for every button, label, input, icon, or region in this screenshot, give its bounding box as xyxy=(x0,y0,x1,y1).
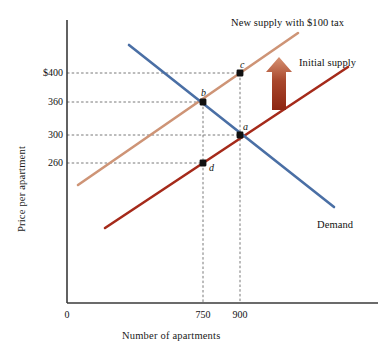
y-tick-label-300: 300 xyxy=(48,129,63,140)
new-supply-label: New supply with $100 tax xyxy=(231,17,344,28)
new-supply-line xyxy=(78,33,298,185)
supply-shift-arrow xyxy=(266,57,292,110)
point-label-b: b xyxy=(201,87,206,98)
x-tick-label-750: 750 xyxy=(188,309,218,320)
demand-label: Demand xyxy=(317,219,353,230)
initial-supply-line xyxy=(105,67,348,228)
point-label-d: d xyxy=(209,162,214,173)
supply-demand-chart: Price per apartment Number of apartments… xyxy=(0,0,385,356)
initial-supply-label: Initial supply xyxy=(299,57,356,68)
horizontal-guide-lines xyxy=(67,73,240,163)
y-tick-label-360: 360 xyxy=(48,96,63,107)
x-tick-label-0: 0 xyxy=(60,309,74,320)
x-axis-title: Number of apartments xyxy=(122,330,220,341)
demand-line xyxy=(129,45,334,207)
chart-canvas xyxy=(0,0,385,356)
point-label-c: c xyxy=(240,59,244,70)
y-tick-label-260: 260 xyxy=(48,157,63,168)
point-marker-b xyxy=(200,99,207,106)
point-marker-d xyxy=(200,160,207,167)
x-tick-label-900: 900 xyxy=(225,309,255,320)
point-marker-c xyxy=(237,70,244,77)
point-label-a: a xyxy=(243,121,248,132)
y-axis-title: Price per apartment xyxy=(16,146,27,232)
y-tick-label-400: $400 xyxy=(43,67,63,78)
point-marker-a xyxy=(237,132,244,139)
